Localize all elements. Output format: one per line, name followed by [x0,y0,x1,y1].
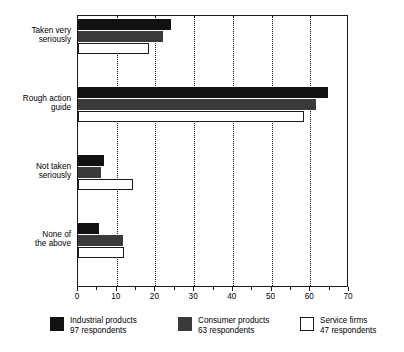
category-label-not-taken-seriously: Not takenseriously [0,162,71,181]
legend-swatch-service [300,317,314,331]
category-label-none-of-the-above: None ofthe above [0,230,71,249]
x-axis-label: 50 [266,292,275,302]
bar-group [78,16,347,84]
x-axis-label: 10 [111,292,120,302]
x-axis-label: 0 [75,292,80,302]
x-tick-60 [309,287,310,291]
legend-text: Service firms47 respondents [320,316,376,336]
bar [78,87,328,98]
bar-group [78,220,347,288]
x-axis-labels: 010203040506070 [77,292,348,304]
legend-swatch-consumer [178,317,192,331]
bar [78,111,304,122]
legend-item: Industrial products97 respondents [50,316,137,336]
x-axis-label: 20 [150,292,159,302]
x-tick-minor-35 [213,287,214,290]
bar-group [78,84,347,152]
legend-item: Service firms47 respondents [300,316,376,336]
chart-legend: Industrial products97 respondentsConsume… [0,316,404,344]
x-axis-label: 70 [343,292,352,302]
legend-swatch-industrial [50,317,64,331]
x-tick-50 [271,287,272,291]
x-tick-minor-65 [329,287,330,290]
x-axis-label: 40 [227,292,236,302]
bar [78,247,124,258]
bar [78,155,104,166]
x-axis-label: 30 [189,292,198,302]
bar [78,223,99,234]
x-tick-10 [116,287,117,291]
bar [78,179,133,190]
bar [78,99,316,110]
x-tick-minor-55 [290,287,291,290]
category-label-taken-very-seriously: Taken veryseriously [0,26,71,45]
category-label-rough-action-guide: Rough actionguide [0,94,71,113]
legend-item: Consumer products63 respondents [178,316,269,336]
bar [78,31,163,42]
legend-respondents: 63 respondents [198,326,269,336]
legend-text: Consumer products63 respondents [198,316,269,336]
x-tick-40 [232,287,233,291]
bar [78,167,101,178]
bar [78,43,149,54]
x-tick-minor-45 [251,287,252,290]
bar-group [78,152,347,220]
x-axis-label: 60 [305,292,314,302]
x-tick-minor-15 [135,287,136,290]
bar [78,235,123,246]
x-tick-0 [77,287,78,291]
x-tick-30 [193,287,194,291]
legend-text: Industrial products97 respondents [70,316,137,336]
x-tick-minor-5 [96,287,97,290]
legend-respondents: 97 respondents [70,326,137,336]
x-tick-70 [348,287,349,291]
x-tick-minor-25 [174,287,175,290]
legend-label: Consumer products [198,316,269,326]
x-tick-20 [154,287,155,291]
bar-chart: Taken veryseriously Rough actionguide No… [0,0,404,352]
legend-label: Industrial products [70,316,137,326]
legend-respondents: 47 respondents [320,326,376,336]
bar [78,19,171,30]
legend-label: Service firms [320,316,376,326]
plot-area [77,15,348,287]
